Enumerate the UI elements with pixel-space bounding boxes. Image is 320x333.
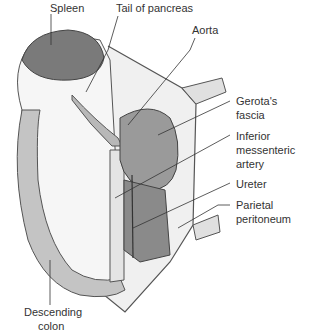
label-aorta: Aorta: [192, 24, 218, 37]
label-parietal-2: peritoneum: [236, 213, 291, 226]
label-gerotas-fascia-2: fascia: [236, 109, 265, 122]
label-ima-3: artery: [236, 158, 264, 171]
psoas: [124, 180, 170, 262]
spleen: [22, 30, 104, 80]
label-gerotas-fascia-1: Gerota's: [236, 95, 277, 108]
label-spleen: Spleen: [50, 2, 84, 15]
label-colon-1: Descending: [24, 306, 82, 319]
aorta: [110, 150, 124, 282]
label-tail-of-pancreas: Tail of pancreas: [116, 2, 193, 15]
label-colon-2: colon: [38, 320, 64, 333]
retractor-lower: [193, 215, 220, 240]
label-ima-1: Inferior: [236, 130, 270, 143]
kidney: [120, 109, 178, 190]
label-parietal-1: Parietal: [236, 199, 273, 212]
label-ureter: Ureter: [236, 178, 267, 191]
label-ima-2: messenteric: [236, 144, 295, 157]
